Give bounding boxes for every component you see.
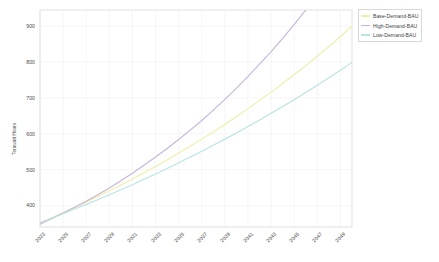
y-tick-label: 600 xyxy=(13,131,35,137)
y-tick-label: 900 xyxy=(13,23,35,29)
y-tick-label: 800 xyxy=(13,59,35,65)
legend-item-label: Base-Demand-BAU xyxy=(373,13,418,19)
y-tick-label: 700 xyxy=(13,95,35,101)
legend-item[interactable]: Base-Demand-BAU xyxy=(361,13,418,19)
chart-legend: Base-Demand-BAUHigh-Demand-BAULow-Demand… xyxy=(358,9,422,42)
legend-item-label: Low-Demand-BAU xyxy=(373,32,416,38)
series-line-0 xyxy=(40,26,352,223)
series-line-1 xyxy=(40,0,352,224)
line-chart: Terawatt Hours 400500600700800900 202320… xyxy=(0,0,439,262)
legend-item[interactable]: High-Demand-BAU xyxy=(361,23,418,29)
y-axis-title: Terawatt Hours xyxy=(12,123,17,155)
legend-swatch-icon xyxy=(361,15,370,16)
legend-swatch-icon xyxy=(361,25,370,26)
y-tick-label: 500 xyxy=(13,167,35,173)
legend-item-label: High-Demand-BAU xyxy=(373,23,417,29)
y-tick-label: 400 xyxy=(13,202,35,208)
legend-item[interactable]: Low-Demand-BAU xyxy=(361,32,418,38)
legend-swatch-icon xyxy=(361,34,370,35)
